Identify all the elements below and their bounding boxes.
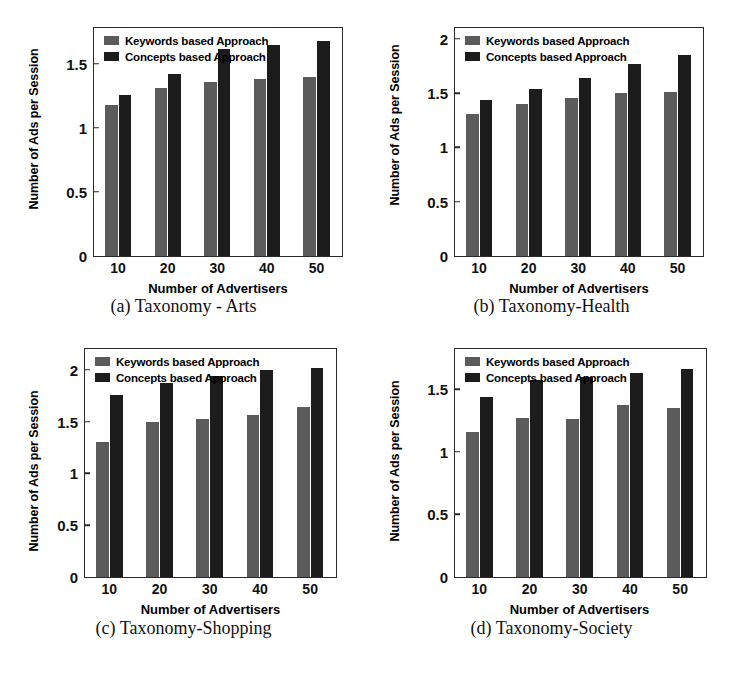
bar-keywords [466,114,479,256]
bar-concepts [110,395,123,577]
bar-concepts [168,74,181,256]
bar-keywords [254,79,267,256]
bar-concepts [530,380,543,577]
x-tick-label: 20 [521,260,537,276]
bar-concepts [681,369,694,577]
y-tick-mark [94,127,99,129]
x-tick-label: 20 [160,260,176,276]
x-tick-label: 40 [252,581,268,597]
x-tick-label: 30 [209,260,225,276]
x-axis-title-d: Number of Advertisers [454,602,705,617]
chart-panel-d: Number of Ads per Session Keywords based… [368,336,735,678]
x-tick-label: 50 [309,260,325,276]
bar-concepts [210,376,223,577]
y-tick-label: 1.5 [57,413,85,430]
y-tick-mark [455,147,460,149]
x-tick-label: 40 [620,260,636,276]
chart-area-d: Number of Ads per Session Keywords based… [368,336,735,626]
x-tick-label: 40 [259,260,275,276]
y-tick-mark [94,63,99,65]
y-tick-label: 1 [70,465,85,482]
legend-label-keywords: Keywords based Approach [486,35,629,47]
caption-d: (d) Taxonomy-Society [368,618,735,639]
figure-grid: Number of Ads per Session Keywords based… [0,0,735,684]
x-tick-label: 50 [672,581,688,597]
x-axis-title-a: Number of Advertisers [93,281,343,296]
bar-keywords [196,419,209,577]
y-tick-label: 0.5 [427,193,455,210]
chart-area-a: Number of Ads per Session Keywords based… [0,0,367,290]
legend-swatch-concepts-icon [465,373,480,382]
y-axis-title-c: Number of Ads per Session [27,381,41,561]
bar-keywords [664,92,677,256]
y-tick-mark [85,524,90,526]
plot-frame-c: Keywords based Approach Concepts based A… [84,348,337,578]
y-tick-label: 2 [70,361,85,378]
y-tick-mark [85,369,90,371]
bar-keywords [516,418,529,577]
y-tick-label: 0 [79,248,94,265]
x-tick-label: 50 [302,581,318,597]
legend-swatch-concepts-icon [465,52,480,61]
plot-frame-b: Keywords based Approach Concepts based A… [454,27,704,257]
bar-keywords [667,408,680,577]
legend-label-concepts: Concepts based Approach [486,51,627,63]
y-tick-label: 2 [440,30,455,47]
bar-keywords [96,442,109,577]
y-tick-mark [94,191,99,193]
y-axis-title-a: Number of Ads per Session [27,39,41,219]
y-tick-label: 0.5 [66,183,94,200]
bar-concepts [579,78,592,256]
bar-concepts [580,377,593,577]
legend-b: Keywords based Approach Concepts based A… [465,33,629,65]
bar-concepts [317,41,330,256]
x-tick-label: 40 [622,581,638,597]
legend-item-keywords: Keywords based Approach [95,354,259,369]
x-tick-label: 10 [102,581,118,597]
legend-label-keywords: Keywords based Approach [125,35,268,47]
legend-swatch-keywords-icon [465,36,480,45]
legend-label-keywords: Keywords based Approach [486,356,629,368]
x-tick-label: 30 [572,581,588,597]
bar-concepts [480,397,493,577]
x-tick-label: 30 [202,581,218,597]
plot-frame-d: Keywords based Approach Concepts based A… [454,348,707,578]
y-tick-label: 0 [440,248,455,265]
bar-keywords [105,105,118,256]
x-tick-label: 20 [522,581,538,597]
y-tick-mark [455,388,460,390]
x-axis-title-b: Number of Advertisers [454,281,704,296]
legend-item-keywords: Keywords based Approach [104,33,268,48]
y-tick-mark [455,38,460,40]
bar-keywords [146,422,159,577]
x-tick-label: 10 [472,581,488,597]
y-tick-mark [455,514,460,516]
bar-concepts [678,55,691,256]
legend-item-concepts: Concepts based Approach [465,370,629,385]
bar-keywords [617,405,630,577]
legend-item-concepts: Concepts based Approach [465,49,629,64]
y-tick-label: 1.5 [427,85,455,102]
x-tick-label: 10 [471,260,487,276]
bar-concepts [628,64,641,256]
bar-keywords [155,88,168,256]
chart-panel-c: Number of Ads per Session Keywords based… [0,336,367,678]
y-tick-label: 1 [440,139,455,156]
legend-label-concepts: Concepts based Approach [125,51,266,63]
legend-item-concepts: Concepts based Approach [104,49,268,64]
legend-swatch-concepts-icon [95,373,110,382]
bar-keywords [297,407,310,577]
y-tick-label: 0.5 [427,506,455,523]
bar-keywords [516,104,529,256]
chart-area-b: Number of Ads per Session Keywords based… [368,0,735,290]
legend-item-keywords: Keywords based Approach [465,354,629,369]
y-tick-label: 0.5 [57,517,85,534]
plot-frame-a: Keywords based Approach Concepts based A… [93,27,343,257]
y-tick-mark [455,451,460,453]
legend-swatch-keywords-icon [95,357,110,366]
y-tick-label: 1.5 [427,381,455,398]
legend-a: Keywords based Approach Concepts based A… [104,33,268,65]
x-tick-label: 50 [670,260,686,276]
x-axis-title-c: Number of Advertisers [84,602,337,617]
y-axis-title-b: Number of Ads per Session [388,35,402,215]
